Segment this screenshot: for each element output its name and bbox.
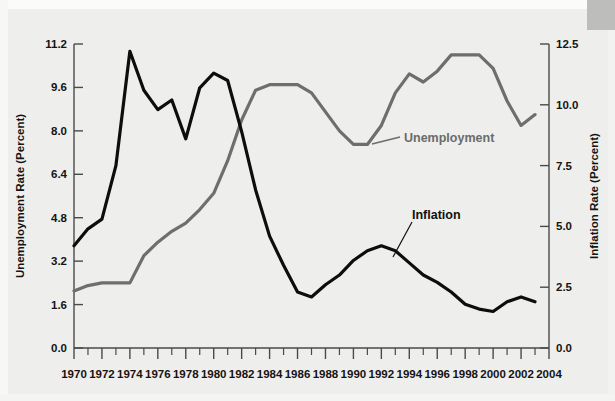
x-tick-label: 1978 <box>173 368 199 380</box>
left-tick-label: 11.2 <box>45 38 67 50</box>
right-tick-label: 7.5 <box>556 160 573 172</box>
right-axis-ticks: 0.02.55.07.510.012.5 <box>540 38 579 354</box>
x-tick-label: 1976 <box>145 368 171 380</box>
annotation-inflation: Inflation <box>393 208 461 257</box>
x-tick-label: 1986 <box>285 368 311 380</box>
left-axis-ticks: 0.01.63.24.86.48.09.611.2 <box>45 38 83 354</box>
left-tick-label: 8.0 <box>51 125 67 137</box>
x-tick-label: 1996 <box>424 368 450 380</box>
right-tick-label: 10.0 <box>556 99 578 111</box>
left-tick-label: 9.6 <box>51 81 67 93</box>
x-tick-label: 1974 <box>117 368 143 380</box>
x-tick-label: 1970 <box>61 368 87 380</box>
right-tick-label: 12.5 <box>556 38 579 50</box>
x-tick-label: 1972 <box>89 368 115 380</box>
x-tick-label: 1994 <box>396 368 422 380</box>
right-tick-label: 0.0 <box>556 342 572 354</box>
x-tick-label: 1984 <box>257 368 283 380</box>
x-tick-label: 1990 <box>341 368 367 380</box>
x-tick-label: 2004 <box>536 368 562 380</box>
dual-axis-line-chart: 0.01.63.24.86.48.09.611.2 0.02.55.07.510… <box>0 0 615 401</box>
chart-figure: 0.01.63.24.86.48.09.611.2 0.02.55.07.510… <box>0 0 615 401</box>
left-tick-label: 3.2 <box>51 255 67 267</box>
x-tick-label: 1998 <box>452 368 478 380</box>
left-tick-label: 6.4 <box>51 168 68 180</box>
unemployment-annotation-label: Unemployment <box>404 131 495 145</box>
left-tick-label: 0.0 <box>51 342 67 354</box>
x-tick-label: 1992 <box>369 368 395 380</box>
annotation-unemployment: Unemployment <box>372 131 495 145</box>
unemployment-leader-line <box>372 137 400 144</box>
x-tick-label: 1982 <box>229 368 255 380</box>
right-tick-label: 2.5 <box>556 281 573 293</box>
x-axis-ticks: 1970197219741976197819801982198419861988… <box>61 348 562 380</box>
x-tick-label: 2000 <box>480 368 506 380</box>
x-tick-label: 2002 <box>508 368 534 380</box>
right-axis-title: Inflation Rate (Percent) <box>588 133 600 259</box>
inflation-leader-line <box>393 222 412 257</box>
inflation-annotation-label: Inflation <box>412 208 461 222</box>
left-tick-label: 4.8 <box>51 212 68 224</box>
x-tick-label: 1980 <box>201 368 227 380</box>
left-axis-title: Unemployment Rate (Percent) <box>14 114 26 278</box>
left-tick-label: 1.6 <box>51 299 67 311</box>
x-tick-label: 1988 <box>313 368 339 380</box>
right-tick-label: 5.0 <box>556 220 572 232</box>
